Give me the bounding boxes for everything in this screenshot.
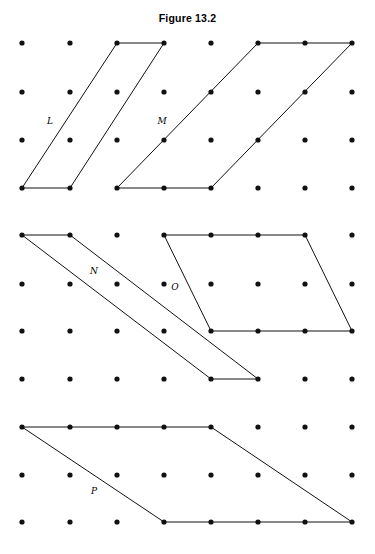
lattice-dot xyxy=(67,519,72,524)
lattice-dot xyxy=(19,376,24,381)
lattice-dot xyxy=(161,281,166,286)
shape-label-n: N xyxy=(89,266,99,276)
parallelogram-m xyxy=(117,43,352,188)
lattice-dot xyxy=(349,281,354,286)
lattice-dot xyxy=(114,519,119,524)
lattice-dot xyxy=(302,472,307,477)
shape-label-l: L xyxy=(46,116,53,126)
lattice-dot xyxy=(208,472,213,477)
dot-lattice-diagram: LMNOP xyxy=(0,0,375,554)
lattice-dot xyxy=(302,376,307,381)
lattice-dot xyxy=(161,89,166,94)
lattice-dot xyxy=(302,281,307,286)
lattice-dot xyxy=(255,185,260,190)
lattice-dot xyxy=(255,472,260,477)
lattice-dot xyxy=(19,328,24,333)
lattice-dot xyxy=(67,328,72,333)
shape-label-p: P xyxy=(90,486,98,496)
figure-container: Figure 13.2 LMNOP xyxy=(0,0,375,554)
lattice-dot xyxy=(114,89,119,94)
lattice-dot xyxy=(349,137,354,142)
lattice-dot xyxy=(19,519,24,524)
shape-label-m: M xyxy=(156,116,167,126)
lattice-dot xyxy=(349,89,354,94)
shape-label-o: O xyxy=(171,282,179,292)
lattice-dot xyxy=(302,185,307,190)
lattice-dot xyxy=(114,376,119,381)
parallelogram-n xyxy=(22,235,258,379)
lattice-dot xyxy=(208,40,213,45)
lattice-dot xyxy=(114,232,119,237)
lattice-dot xyxy=(349,232,354,237)
lattice-dot xyxy=(349,472,354,477)
lattice-dot xyxy=(349,424,354,429)
lattice-dot xyxy=(67,40,72,45)
lattice-dot xyxy=(67,472,72,477)
lattice-dot xyxy=(67,89,72,94)
parallelogram-l xyxy=(22,43,164,188)
lattice-dot xyxy=(255,424,260,429)
lattice-dot xyxy=(114,328,119,333)
lattice-dot xyxy=(161,376,166,381)
lattice-dot xyxy=(114,281,119,286)
lattice-dot xyxy=(19,281,24,286)
lattice-dot xyxy=(114,472,119,477)
lattice-dot xyxy=(67,137,72,142)
lattice-dot xyxy=(208,281,213,286)
lattice-dot xyxy=(302,424,307,429)
lattice-dot xyxy=(349,185,354,190)
shape-labels-group: LMNOP xyxy=(46,116,179,496)
lattice-dot xyxy=(67,376,72,381)
lattice-dot xyxy=(19,89,24,94)
lattice-dot xyxy=(302,137,307,142)
lattice-dot xyxy=(255,281,260,286)
lattice-dot xyxy=(161,472,166,477)
lattice-dot xyxy=(114,137,119,142)
lattice-dot xyxy=(208,137,213,142)
lattice-dot xyxy=(19,137,24,142)
lattice-dot xyxy=(67,281,72,286)
lattice-dot xyxy=(255,89,260,94)
lattice-dot xyxy=(19,40,24,45)
lattice-dot xyxy=(349,376,354,381)
lattice-dot xyxy=(19,472,24,477)
lattice-dot xyxy=(161,328,166,333)
